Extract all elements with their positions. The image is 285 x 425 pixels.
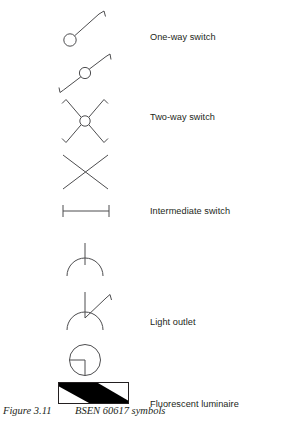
symbol-row-switched-socket-outlet: Switched socket outlet — [0, 288, 285, 338]
fluorescent-luminaire-symbol — [40, 196, 150, 226]
symbol-row-light-outlet: Light outlet — [0, 150, 285, 194]
figure-bsen-60617-symbols: One-way switch Two-way switch — [0, 0, 285, 425]
two-way-switch-symbol — [40, 52, 150, 96]
intermediate-switch-symbol — [40, 96, 150, 148]
symbol-row-fluorescent-luminaire: Fluorescent luminaire — [0, 196, 285, 226]
intake-point-symbol — [40, 380, 150, 408]
figure-caption-text: BSEN 60617 symbols — [75, 405, 165, 416]
symbol-row-intake-point: Intake point — [0, 380, 285, 408]
symbol-row-intermediate-switch: Intermediate switch — [0, 96, 285, 148]
socket-outlet-symbol — [40, 238, 150, 282]
figure-caption-number: Figure 3.11 — [3, 405, 75, 416]
figure-caption: Figure 3.11BSEN 60617 symbols — [3, 405, 165, 416]
switched-socket-outlet-symbol — [40, 288, 150, 338]
one-way-switch-symbol — [40, 8, 150, 52]
clock-symbol — [40, 340, 150, 380]
symbol-row-one-way-switch: One-way switch — [0, 8, 285, 52]
symbol-row-clock: Clock — [0, 340, 285, 380]
symbol-row-two-way-switch: Two-way switch — [0, 52, 285, 96]
label-one-way-switch: One-way switch — [150, 32, 216, 42]
symbol-row-socket-outlet: Socket outlet — [0, 238, 285, 282]
light-outlet-symbol — [40, 150, 150, 194]
